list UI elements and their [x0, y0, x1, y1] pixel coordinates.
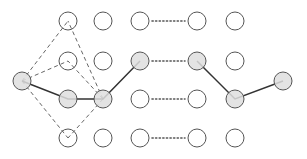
- state-node: [226, 52, 244, 70]
- state-node: [131, 12, 149, 30]
- highlighted-node: [94, 90, 112, 108]
- state-nodes: [13, 12, 292, 147]
- state-node: [226, 12, 244, 30]
- end-node: [274, 72, 292, 90]
- start-node: [13, 72, 31, 90]
- candidate-edges: [22, 21, 103, 138]
- state-node: [188, 12, 206, 30]
- state-node: [94, 12, 112, 30]
- state-node: [188, 90, 206, 108]
- trellis-diagram: [0, 0, 307, 159]
- state-node: [59, 12, 77, 30]
- path-segment: [22, 61, 140, 99]
- highlighted-node: [226, 90, 244, 108]
- highlighted-node: [59, 90, 77, 108]
- state-node: [59, 129, 77, 147]
- state-node: [226, 129, 244, 147]
- state-node: [131, 129, 149, 147]
- ellipsis-connectors: [152, 21, 185, 138]
- state-node: [94, 129, 112, 147]
- highlighted-node: [188, 52, 206, 70]
- state-node: [188, 129, 206, 147]
- state-node: [131, 90, 149, 108]
- state-node: [94, 52, 112, 70]
- state-node: [59, 52, 77, 70]
- highlighted-node: [131, 52, 149, 70]
- dashed-edge: [22, 21, 68, 81]
